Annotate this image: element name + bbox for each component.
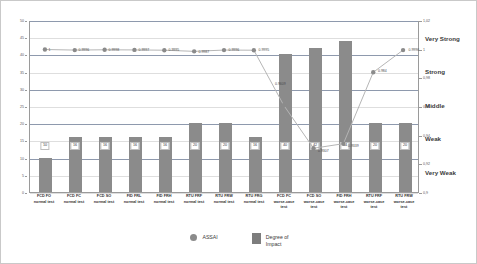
legend-item-assai: ASSAI [190, 233, 217, 241]
y-axis-right-tick-label: 0,98 [423, 76, 430, 80]
y-axis-right-tick-label: 0,9 [423, 191, 428, 195]
assai-data-point[interactable] [43, 47, 47, 51]
x-axis-tick-label: RTU FRF worse-case test [359, 194, 389, 211]
chart-container: 05101520253035404550 1016161616202016404… [0, 0, 477, 264]
x-axis-tick-label: RTU FRG normal test [239, 194, 269, 205]
x-axis-tick-label: FCD FC normal test [59, 194, 89, 205]
assai-point-label: 0.9307 [318, 149, 329, 153]
assai-data-point[interactable] [252, 48, 256, 52]
assai-point-label: 0.9339 [348, 144, 359, 148]
x-axis-tick-label: FCD SO worse-case test [299, 194, 329, 211]
y-axis-right-tick-label: 0,92 [423, 162, 430, 166]
y-axis-left-tick-label: 20 [20, 122, 24, 126]
assai-data-point[interactable] [401, 48, 405, 52]
assai-data-point[interactable] [102, 48, 106, 52]
plot-area: 10161616162020164042442020 10.99960.9998… [29, 21, 419, 193]
assai-point-label: 0.9995 [259, 48, 270, 52]
assai-line-path [30, 21, 418, 192]
y-axis-left-tick-label: 35 [20, 71, 24, 75]
assai-data-point[interactable] [222, 48, 226, 52]
assai-data-point[interactable] [162, 48, 166, 52]
assai-point-label: 0.9609 [275, 82, 286, 86]
y-axis-left-tick-label: 15 [20, 139, 24, 143]
line-series-layer: 10.99960.99980.99970.99950.99870.99960.9… [30, 21, 418, 192]
legend-label: Degree of Impact [266, 233, 289, 248]
y-axis-left-tick-label: 10 [20, 157, 24, 161]
x-axis: FCD FO normal testFCD FC normal testFCD … [29, 194, 419, 228]
y-axis-left-tick-label: 0 [22, 191, 24, 195]
x-axis-tick-label: FCD FC worse-case test [269, 194, 299, 211]
strength-band-label: Strong [425, 68, 445, 75]
bar-marker-icon [252, 233, 261, 244]
strength-band-label: Weak [425, 134, 441, 141]
y-axis-right: 0,90,920,940,960,9811,02Very WeakWeakMid… [419, 21, 477, 193]
y-axis-right-tick-label: 1,02 [423, 19, 430, 23]
x-axis-tick-label: FID FRH worse-case test [329, 194, 359, 211]
legend-item-degree-of-impact: Degree of Impact [252, 233, 289, 248]
assai-point-label: 0.9996 [79, 48, 90, 52]
x-axis-tick-label: FID FRL normal test [119, 194, 149, 205]
strength-band-label: Very Strong [425, 35, 460, 42]
assai-point-label: 0.9997 [139, 48, 150, 52]
y-axis-left-tick-label: 25 [20, 105, 24, 109]
assai-data-point[interactable] [341, 142, 345, 146]
x-axis-tick-label: RTU FRF normal test [179, 194, 209, 205]
assai-data-point[interactable] [371, 70, 375, 74]
assai-data-point[interactable] [282, 103, 286, 107]
chart-legend: ASSAI Degree of Impact [1, 233, 477, 259]
circle-marker-icon [190, 234, 197, 241]
assai-point-label: 0.9998 [109, 48, 120, 52]
assai-data-point[interactable] [311, 146, 315, 150]
assai-point-label: 0.984 [378, 69, 387, 73]
x-axis-tick-label: FCD FO normal test [29, 194, 59, 205]
x-axis-tick-label: FCD SO normal test [89, 194, 119, 205]
assai-point-label: 0.9996 [229, 48, 240, 52]
y-axis-left-tick-label: 50 [20, 19, 24, 23]
y-axis-left-tick-label: 45 [20, 36, 24, 40]
assai-point-label: 1 [49, 48, 51, 52]
strength-band-label: Middle [425, 101, 445, 108]
assai-data-point[interactable] [73, 48, 77, 52]
assai-point-label: 0.9996 [409, 48, 420, 52]
assai-point-label: 0.9995 [169, 48, 180, 52]
x-axis-tick-label: FID FRH normal test [149, 194, 179, 205]
y-axis-right-tick-label: 1 [423, 48, 425, 52]
y-axis-left-tick-label: 5 [22, 174, 24, 178]
assai-point-label: 0.9987 [199, 50, 210, 54]
assai-data-point[interactable] [132, 48, 136, 52]
legend-label: ASSAI [202, 233, 217, 241]
y-axis-left-tick-label: 40 [20, 53, 24, 57]
y-axis-left: 05101520253035404550 [1, 21, 27, 193]
strength-band-label: Very Weak [425, 168, 456, 175]
y-axis-left-tick-label: 30 [20, 88, 24, 92]
x-axis-tick-label: RTU FRW normal test [209, 194, 239, 205]
assai-data-point[interactable] [192, 49, 196, 53]
x-axis-tick-label: RTU FRW worse-case test [389, 194, 419, 211]
